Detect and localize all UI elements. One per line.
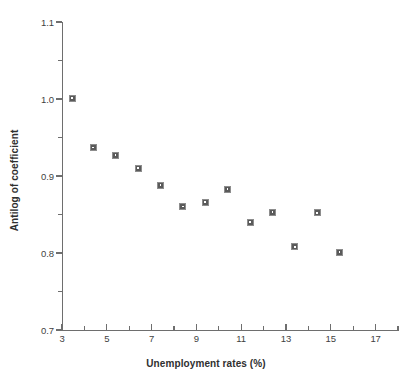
data-points-layer bbox=[62, 22, 398, 330]
x-axis-tick-label: 9 bbox=[194, 333, 199, 344]
x-axis-tick-label: 5 bbox=[104, 333, 109, 344]
data-point-marker bbox=[157, 182, 164, 189]
scatter-chart-figure: Antilog of coefficient 0.70.80.91.01.135… bbox=[0, 0, 412, 388]
y-axis-tick-label: 1.1 bbox=[41, 17, 54, 28]
data-point-marker bbox=[336, 249, 343, 256]
caption-fragment bbox=[8, 376, 168, 386]
x-axis-title: Unemployment rates (%) bbox=[0, 358, 412, 369]
y-axis-title-text: Antilog of coefficient bbox=[10, 129, 21, 231]
y-axis-tick-label: 0.8 bbox=[41, 248, 54, 259]
y-axis-tick-label: 0.9 bbox=[41, 171, 54, 182]
data-point-marker bbox=[314, 209, 321, 216]
y-axis-tick-label: 1.0 bbox=[41, 94, 54, 105]
data-point-marker bbox=[112, 152, 119, 159]
x-axis-tick-label: 15 bbox=[326, 333, 336, 344]
x-axis-tick-label: 3 bbox=[59, 333, 64, 344]
data-point-marker bbox=[224, 186, 231, 193]
data-point-marker bbox=[90, 144, 97, 151]
x-axis-tick-label: 11 bbox=[236, 333, 246, 344]
data-point-marker bbox=[291, 243, 298, 250]
data-point-marker bbox=[179, 203, 186, 210]
data-point-marker bbox=[247, 219, 254, 226]
y-axis-tick-label: 0.7 bbox=[41, 325, 54, 336]
x-axis-tick-label: 13 bbox=[281, 333, 291, 344]
data-point-marker bbox=[135, 165, 142, 172]
x-axis-tick-label: 7 bbox=[149, 333, 154, 344]
data-point-marker bbox=[202, 199, 209, 206]
y-axis-title: Antilog of coefficient bbox=[3, 100, 27, 260]
data-point-marker bbox=[69, 95, 76, 102]
data-point-marker bbox=[269, 209, 276, 216]
x-axis-tick-label: 17 bbox=[370, 333, 380, 344]
